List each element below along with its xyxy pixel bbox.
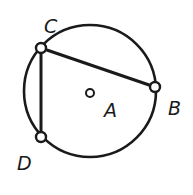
circle-diagram: C B D A	[0, 0, 193, 195]
label-d: D	[17, 152, 32, 174]
point-d-marker	[36, 132, 46, 142]
point-c-marker	[36, 43, 46, 53]
point-b-marker	[150, 82, 160, 92]
chord-cb	[41, 48, 155, 87]
label-c: C	[44, 15, 58, 37]
label-b: B	[168, 97, 181, 119]
label-a: A	[102, 99, 117, 121]
center-a-marker	[86, 89, 94, 97]
